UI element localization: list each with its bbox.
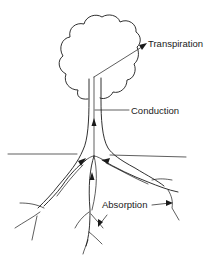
transpiration-pointer-line — [94, 45, 145, 77]
left-root — [44, 160, 86, 206]
tree-water-transport-diagram: Transpiration Conduction Absorption — [0, 0, 210, 262]
right-root-branch-2 — [168, 190, 179, 220]
left-root-branch-3 — [32, 216, 37, 240]
tree-canopy — [59, 15, 140, 99]
right-root — [102, 160, 178, 192]
conduction-label: Conduction — [131, 105, 179, 116]
left-root-inner — [57, 165, 83, 196]
trunk-right-edge — [101, 78, 164, 186]
center-root-branch-4 — [83, 240, 88, 254]
left-absorption-arrowhead — [78, 158, 86, 166]
ground-line-right — [110, 155, 186, 157]
transpiration-label: Transpiration — [148, 38, 203, 49]
center-root-right — [92, 156, 96, 210]
transpiration-arrowhead — [139, 43, 147, 50]
absorption-label: Absorption — [102, 199, 147, 210]
center-root-branch-3 — [89, 232, 102, 244]
center-root-branch-1 — [75, 212, 89, 228]
conduction-arrowhead — [92, 118, 97, 126]
absorption-pointer-left-arrowhead — [98, 219, 103, 227]
right-root-inner — [106, 163, 148, 184]
